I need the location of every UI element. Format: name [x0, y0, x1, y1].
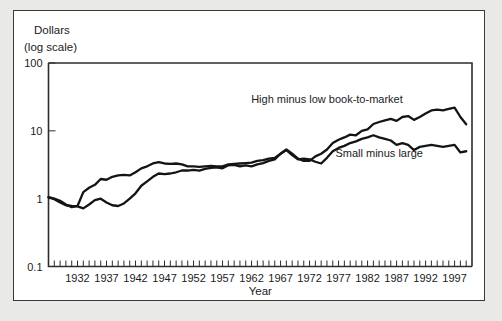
x-tick-label: 1947: [152, 272, 176, 284]
x-tick-label: 1937: [94, 272, 118, 284]
x-tick-label: 1977: [326, 272, 350, 284]
y-axis-title-line1: Dollars: [34, 24, 70, 36]
series-annotation: High minus low book-to-market: [251, 93, 403, 105]
x-tick-label: 1982: [355, 272, 379, 284]
x-axis-title: Year: [249, 285, 272, 297]
y-axis-title-line2: (log scale): [24, 41, 77, 53]
x-tick-label: 1962: [239, 272, 263, 284]
y-tick-label: 10: [30, 125, 42, 137]
x-tick-label: 1942: [123, 272, 147, 284]
series-annotations: High minus low book-to-marketSmall minus…: [251, 93, 423, 159]
y-tick-label: 0.1: [27, 261, 42, 273]
series-annotation: Small minus large: [335, 147, 422, 159]
y-axis-title: Dollars (log scale): [24, 24, 77, 53]
chart-canvas: Dollars (log scale) 0.1110100 1932193719…: [0, 0, 502, 321]
x-tick-label: 1952: [181, 272, 205, 284]
y-tick-label: 100: [24, 57, 42, 69]
x-axis-ticks: 1932193719421947195219571962196719721977…: [54, 261, 467, 284]
y-tick-label: 1: [36, 193, 42, 205]
x-tick-label: 1992: [413, 272, 437, 284]
x-tick-label: 1932: [65, 272, 89, 284]
figure-root: Dollars (log scale) 0.1110100 1932193719…: [0, 0, 502, 321]
y-axis-ticks: 0.1110100: [24, 57, 55, 273]
x-tick-label: 1987: [384, 272, 408, 284]
x-tick-label: 1997: [442, 272, 466, 284]
x-tick-label: 1957: [210, 272, 234, 284]
x-tick-label: 1967: [268, 272, 292, 284]
x-tick-label: 1972: [297, 272, 321, 284]
